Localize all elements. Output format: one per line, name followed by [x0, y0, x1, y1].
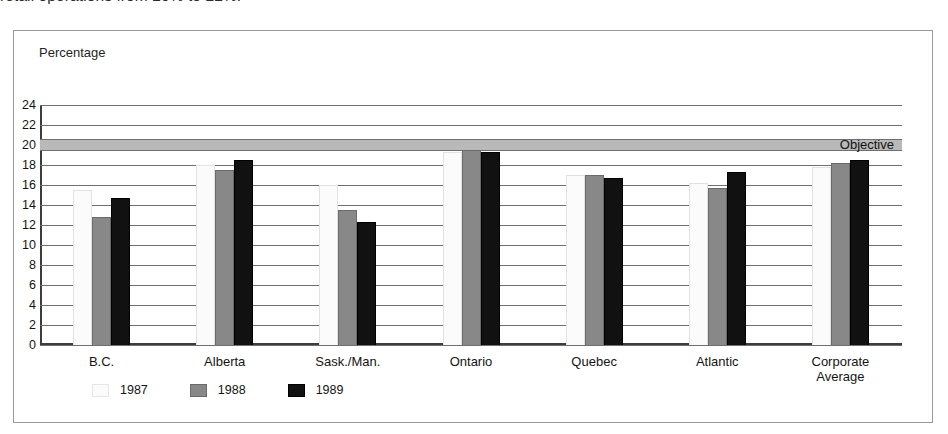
bar-1987	[443, 152, 462, 345]
y-tick-20: 20	[14, 139, 36, 152]
y-tick-10: 10	[14, 239, 36, 252]
bar-1988	[831, 163, 850, 345]
bar-1989	[727, 172, 746, 345]
bar-1989	[234, 160, 253, 345]
y-tick-2: 2	[14, 319, 36, 332]
bar-group	[319, 105, 376, 345]
chart-legend: 198719881989	[92, 383, 385, 397]
bar-group	[73, 105, 130, 345]
y-tick-22: 22	[14, 119, 36, 132]
bar-group	[196, 105, 253, 345]
legend-label-1987: 1987	[120, 383, 148, 397]
y-tick-12: 12	[14, 219, 36, 232]
x-label: B.C.	[40, 355, 163, 370]
legend-swatch-1987	[92, 384, 109, 397]
x-label: Alberta	[163, 355, 286, 370]
y-tick-14: 14	[14, 199, 36, 212]
y-tick-24: 24	[14, 99, 36, 112]
legend-item-1989[interactable]: 1989	[288, 383, 344, 397]
bar-1988	[92, 217, 111, 345]
y-axis-title: Percentage	[39, 45, 106, 60]
bar-1988	[215, 170, 234, 345]
bar-1988	[462, 150, 481, 345]
bar-1989	[850, 160, 869, 345]
bar-1987	[812, 167, 831, 345]
x-label: Atlantic	[656, 355, 779, 370]
bar-1988	[585, 175, 604, 345]
legend-swatch-1988	[190, 384, 207, 397]
bar-1989	[604, 178, 623, 345]
legend-item-1987[interactable]: 1987	[92, 383, 148, 397]
y-tick-8: 8	[14, 259, 36, 272]
y-tick-18: 18	[14, 159, 36, 172]
chart-figure-frame: Percentage 024681012141618202224 Objecti…	[13, 30, 933, 423]
y-tick-0: 0	[14, 339, 36, 352]
bar-1988	[338, 210, 357, 345]
y-tick-6: 6	[14, 279, 36, 292]
legend-swatch-1989	[288, 384, 305, 397]
bar-group	[812, 105, 869, 345]
x-label: Ontario	[409, 355, 532, 370]
x-label: Corporate Average	[779, 355, 902, 385]
bar-1989	[111, 198, 130, 345]
y-tick-4: 4	[14, 299, 36, 312]
y-tick-16: 16	[14, 179, 36, 192]
caption-text: retail operations from 20% to 22%.	[0, 0, 560, 9]
legend-item-1988[interactable]: 1988	[190, 383, 246, 397]
bar-1989	[357, 222, 376, 345]
bar-1987	[689, 183, 708, 345]
bar-1987	[73, 190, 92, 345]
legend-label-1989: 1989	[316, 383, 344, 397]
bar-1989	[481, 152, 500, 345]
bar-1987	[196, 165, 215, 345]
bar-1987	[566, 175, 585, 345]
x-label: Sask./Man.	[286, 355, 409, 370]
bar-group	[443, 105, 500, 345]
bar-1987	[319, 185, 338, 345]
bar-group	[689, 105, 746, 345]
plot-area: 024681012141618202224 Objective	[40, 105, 902, 345]
legend-label-1988: 1988	[218, 383, 246, 397]
bar-group	[566, 105, 623, 345]
bar-1988	[708, 188, 727, 345]
x-label: Quebec	[533, 355, 656, 370]
